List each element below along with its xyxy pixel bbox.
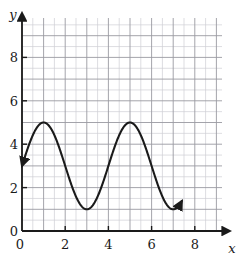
x-tick-label: 6 xyxy=(147,237,155,252)
x-tick-label: 8 xyxy=(191,237,199,252)
x-axis-label: x xyxy=(228,241,236,256)
x-tick-label: 4 xyxy=(104,237,112,252)
origin-label: 0 xyxy=(16,237,24,252)
coordinate-plane: 0246802468 y x xyxy=(0,0,245,261)
y-zero-label: 0 xyxy=(10,224,18,239)
y-axis-label: y xyxy=(8,7,17,22)
y-tick-label: 2 xyxy=(10,181,18,196)
y-tick-label: 4 xyxy=(10,137,18,152)
y-tick-label: 6 xyxy=(10,94,18,109)
graph-figure: 0246802468 y x xyxy=(0,0,245,261)
x-tick-label: 2 xyxy=(61,237,69,252)
y-tick-label: 8 xyxy=(10,50,18,65)
